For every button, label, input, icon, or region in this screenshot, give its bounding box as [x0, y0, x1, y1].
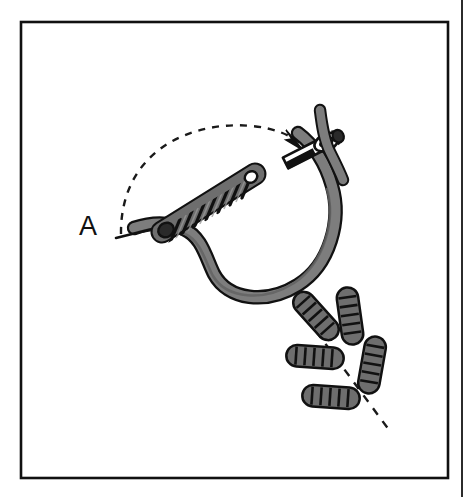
figure-frame-border	[21, 22, 448, 478]
step-label-a: A	[79, 211, 97, 241]
embroidery-diagram-figure: A	[0, 0, 471, 497]
bullion-knot-middle-left	[284, 343, 346, 371]
bullion-knot-lower-left	[300, 383, 362, 411]
diagram-page: A	[0, 0, 471, 497]
